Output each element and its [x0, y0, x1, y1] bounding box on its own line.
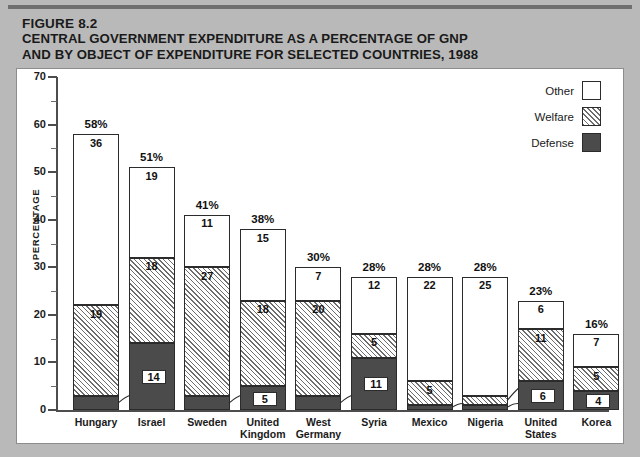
bar-segment-defense[interactable] [73, 396, 119, 410]
bar-total-label: 58% [67, 118, 125, 130]
bar-segment-other[interactable] [462, 277, 508, 396]
bar-total-label: 38% [234, 213, 292, 225]
bar-segment-other[interactable] [407, 277, 453, 382]
figure-title-line-2: AND BY OBJECT OF EXPENDITURE FOR SELECTE… [22, 47, 622, 63]
y-minor-tick-25 [51, 291, 57, 292]
segment-value-label: 15 [240, 232, 286, 244]
segment-value-label: 18 [240, 303, 286, 315]
bar-total-label: 41% [178, 199, 236, 211]
segment-value-label: 18 [129, 260, 175, 272]
bar-segment-welfare[interactable] [184, 267, 230, 395]
bar-total-label: 28% [401, 261, 459, 273]
bar-total-label: 28% [456, 261, 514, 273]
bar-total-label: 30% [289, 251, 347, 263]
bar-total-label: 51% [123, 151, 181, 163]
bar-segment-welfare[interactable] [462, 396, 508, 406]
y-tick-70 [48, 76, 57, 78]
y-tick-30 [48, 266, 57, 268]
bar-group[interactable]: 45716% [573, 69, 619, 410]
segment-value-label: 5 [407, 384, 453, 396]
segment-value-label: 7 [573, 336, 619, 348]
y-tick-40 [48, 219, 57, 221]
plot-area: PERCENTAGE 010203040506070 3193658%14181… [17, 69, 625, 445]
segment-value-label: 25 [462, 279, 508, 291]
y-tick-label-30: 30 [17, 260, 46, 272]
segment-value-label: 22 [407, 279, 453, 291]
segment-value-label: 11 [184, 217, 230, 229]
segment-value-label: 19 [73, 308, 119, 320]
segment-value-label: 7 [295, 270, 341, 282]
y-minor-tick-5 [51, 386, 57, 387]
figure-number: FIGURE 8.2 [22, 16, 622, 31]
x-axis-label-line: Korea [560, 417, 632, 429]
segment-value-label: 19 [129, 170, 175, 182]
segment-value-label-boxed: 4 [586, 394, 610, 408]
bar-group[interactable]: 320730% [295, 69, 341, 410]
y-minor-tick-35 [51, 244, 57, 245]
y-tick-20 [48, 314, 57, 316]
bar-group[interactable]: 122528% [462, 69, 508, 410]
bar-segment-defense[interactable] [407, 405, 453, 410]
figure-8-2: FIGURE 8.2 CENTRAL GOVERNMENT EXPENDITUR… [0, 0, 640, 457]
x-axis-label-line: Germany [282, 429, 354, 441]
segment-value-label: 12 [351, 279, 397, 291]
segment-value-label: 36 [73, 137, 119, 149]
figure-title-block: FIGURE 8.2 CENTRAL GOVERNMENT EXPENDITUR… [22, 16, 622, 62]
bar-segment-defense[interactable] [462, 405, 508, 410]
bar-group[interactable]: 611623% [518, 69, 564, 410]
y-minor-tick-55 [51, 148, 57, 149]
bar-group[interactable]: 5181538% [240, 69, 286, 410]
segment-value-label: 5 [573, 370, 619, 382]
y-tick-50 [48, 171, 57, 173]
bar-group[interactable]: 3193658% [73, 69, 119, 410]
segment-value-label: 5 [351, 336, 397, 348]
y-minor-tick-45 [51, 196, 57, 197]
segment-value-label-boxed: 14 [142, 370, 166, 384]
y-tick-0 [48, 409, 57, 411]
bar-group[interactable]: 14181951% [129, 69, 175, 410]
x-axis-label-line: States [505, 429, 577, 441]
bar-group[interactable]: 1151228% [351, 69, 397, 410]
segment-value-label: 20 [295, 303, 341, 315]
bar-segment-defense[interactable] [295, 396, 341, 410]
segment-value-label-boxed: 6 [531, 389, 555, 403]
segment-value-label: 11 [518, 332, 564, 344]
y-minor-tick-65 [51, 101, 57, 102]
segment-value-label-boxed: 11 [364, 377, 388, 391]
y-tick-label-60: 60 [17, 118, 46, 130]
bar-segment-defense[interactable] [184, 396, 230, 410]
bar-group[interactable]: 152228% [407, 69, 453, 410]
y-tick-label-10: 10 [17, 355, 46, 367]
y-tick-label-40: 40 [17, 213, 46, 225]
y-tick-60 [48, 124, 57, 126]
bar-total-label: 16% [567, 318, 625, 330]
y-tick-label-0: 0 [17, 403, 46, 415]
bar-segment-other[interactable] [73, 134, 119, 305]
figure-title-line-1: CENTRAL GOVERNMENT EXPENDITURE AS A PERC… [22, 31, 622, 47]
segment-value-label: 6 [518, 303, 564, 315]
top-rule-divider [8, 5, 632, 9]
y-tick-label-20: 20 [17, 308, 46, 320]
y-tick-10 [48, 361, 57, 363]
x-axis-label-korea: Korea [560, 417, 632, 429]
segment-value-label-boxed: 5 [253, 392, 277, 406]
bar-total-label: 23% [512, 285, 570, 297]
segment-value-label: 27 [184, 270, 230, 282]
y-minor-tick-15 [51, 339, 57, 340]
bar-group[interactable]: 3271141% [184, 69, 230, 410]
y-tick-label-50: 50 [17, 165, 46, 177]
y-tick-label-70: 70 [17, 70, 46, 82]
bar-total-label: 28% [345, 261, 403, 273]
chart-panel: Other Welfare Defense PERCENTAGE 0102030… [16, 68, 624, 444]
